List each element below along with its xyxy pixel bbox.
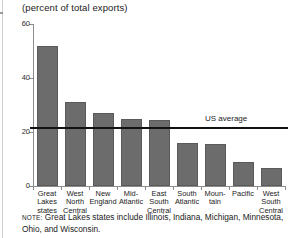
bar [149,120,170,186]
bar [177,143,198,186]
chart-subtitle: (percent of total exports) [22,2,128,13]
x-axis-label: NewEngland [89,190,117,207]
chart-figure: (percent of total exports) 0204060 US av… [0,0,292,238]
x-axis-label: Moun-tain [201,190,229,207]
note-text: Great Lakes states include Illinois, Ind… [22,212,283,234]
bar [261,168,282,186]
y-tick-label: 20 [22,127,30,136]
bar [37,46,58,186]
bar [65,102,86,186]
x-tick-mark [285,186,286,190]
chart-note: NOTE: Great Lakes states include Illinoi… [22,212,284,234]
y-tick-label: 60 [22,19,30,28]
y-tick: 40 [33,78,34,79]
y-axis-line [33,24,34,187]
us-average-line [30,127,288,129]
y-tick: 60 [33,24,34,25]
y-tick-label: 40 [22,73,30,82]
page-gutter-mark [0,12,3,14]
page-gutter-line [2,0,3,238]
note-prefix: NOTE: [22,214,43,221]
y-tick-label: 0 [26,181,30,190]
x-axis-line [33,186,285,187]
y-tick: 20 [33,132,34,133]
us-average-label: US average [205,114,247,123]
bar [233,162,254,186]
x-axis-label: SouthAtlantic [173,190,201,207]
bar [205,144,226,186]
bar [93,113,114,186]
plot-area: 0204060 US average [33,24,285,186]
x-axis-label: Mid-Atlantic [117,190,145,207]
x-axis-label: Pacific [229,190,257,198]
